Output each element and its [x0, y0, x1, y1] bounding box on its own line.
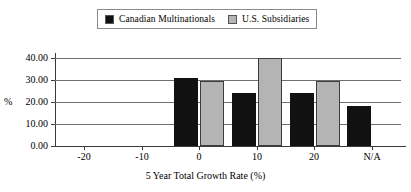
legend-label: U.S. Subsidiaries: [242, 14, 309, 24]
bar-canadian-multinationals: [174, 78, 198, 146]
x-axis-tick-label: 0: [169, 151, 229, 163]
legend-item-canadian-multinationals: Canadian Multinationals: [105, 14, 215, 24]
x-axis-title: 5 Year Total Growth Rate (%): [0, 170, 411, 182]
y-axis-tick: [51, 102, 55, 103]
x-axis-tick: [372, 147, 373, 150]
bar-us-subsidiaries: [316, 81, 340, 146]
x-axis-tick-label: 20: [284, 151, 344, 163]
y-axis-tick-label: 30.00: [0, 74, 48, 85]
legend-item-us-subsidiaries: U.S. Subsidiaries: [228, 14, 309, 24]
gridline: [55, 58, 401, 59]
y-axis-tick-label: 20.00: [0, 96, 48, 107]
bar-us-subsidiaries: [200, 81, 224, 146]
x-axis-tick: [314, 147, 315, 150]
gridline: [55, 80, 401, 81]
y-axis-tick: [51, 80, 55, 81]
y-axis-tick-label: 10.00: [0, 118, 48, 129]
y-axis-tick-label: 40.00: [0, 52, 48, 63]
bar-canadian-multinationals: [290, 93, 314, 146]
y-axis-tick: [51, 124, 55, 125]
y-axis-tick-label: 0.00: [0, 140, 48, 151]
x-axis-tick-label: -20: [54, 151, 114, 163]
x-axis-tick: [142, 147, 143, 150]
legend-swatch-icon: [105, 15, 114, 24]
y-axis-tick: [51, 146, 55, 147]
legend-swatch-icon: [228, 15, 237, 24]
chart-legend: Canadian Multinationals U.S. Subsidiarie…: [97, 9, 317, 29]
bar-us-subsidiaries: [258, 58, 282, 146]
bar-canadian-multinationals: [232, 93, 256, 146]
x-axis-tick: [84, 147, 85, 150]
x-axis-tick: [199, 147, 200, 150]
plot-area: [55, 58, 401, 146]
bar-chart-figure: Canadian Multinationals U.S. Subsidiarie…: [0, 0, 411, 192]
y-axis-tick: [51, 58, 55, 59]
x-axis-line: [55, 146, 406, 147]
bar-canadian-multinationals: [347, 106, 371, 146]
x-axis-tick: [257, 147, 258, 150]
x-axis-tick-label: N/A: [342, 151, 402, 163]
legend-label: Canadian Multinationals: [119, 14, 215, 24]
x-axis-tick-label: 10: [227, 151, 287, 163]
x-axis-tick-label: -10: [112, 151, 172, 163]
gridline: [55, 102, 401, 103]
